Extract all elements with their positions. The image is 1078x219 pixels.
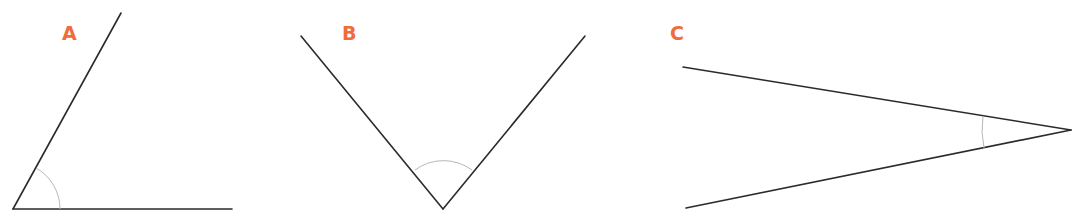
angle-c-label: C — [670, 22, 684, 44]
angle-b-label: B — [342, 22, 356, 44]
angle-b-left-ray — [301, 36, 443, 209]
angle-c-arc — [982, 116, 984, 148]
angle-a: A — [13, 13, 232, 209]
angle-b-arc — [415, 161, 472, 170]
angles-diagram: A B C — [0, 0, 1078, 219]
angle-c-upper-ray — [683, 67, 1071, 130]
angle-c-lower-ray — [686, 130, 1071, 208]
angle-a-label: A — [62, 22, 77, 44]
angle-b-right-ray — [443, 36, 585, 209]
angle-c: C — [670, 22, 1071, 208]
angle-b: B — [301, 22, 585, 209]
angle-a-arc — [36, 168, 60, 209]
